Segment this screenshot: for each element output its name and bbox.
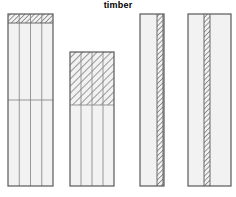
timber-diagram: timber	[0, 0, 236, 197]
specimen-4	[188, 14, 231, 186]
specimen-1	[8, 14, 53, 186]
specimen-2	[70, 52, 114, 186]
timber-specimens-figure	[0, 0, 236, 197]
specimen-3	[140, 14, 164, 186]
